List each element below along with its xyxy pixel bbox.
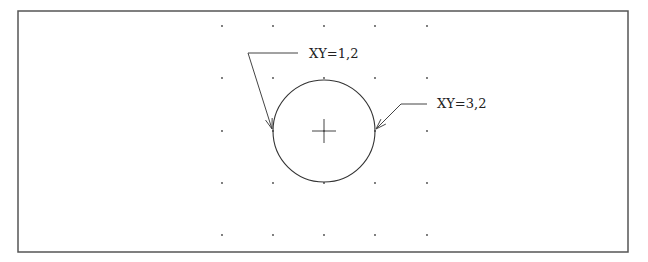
grid-dot xyxy=(272,182,274,184)
grid-dot xyxy=(221,25,223,27)
grid-dot xyxy=(426,182,428,184)
grid-dot xyxy=(426,234,428,236)
center-cross-icon xyxy=(312,119,336,143)
grid-dot xyxy=(272,77,274,79)
grid-dot xyxy=(374,77,376,79)
grid-dot xyxy=(272,234,274,236)
callout-label-point-2: XY=3,2 xyxy=(437,96,486,111)
grid-dot xyxy=(374,182,376,184)
grid-dot xyxy=(323,234,325,236)
callout-label-point-1: XY=1,2 xyxy=(309,46,358,61)
grid-dot xyxy=(426,130,428,132)
grid-dot xyxy=(323,25,325,27)
grid-dot xyxy=(221,182,223,184)
grid-dot xyxy=(374,25,376,27)
grid-dot xyxy=(374,234,376,236)
grid-dot xyxy=(221,130,223,132)
grid-dot xyxy=(426,77,428,79)
grid-dot xyxy=(221,234,223,236)
grid-dot xyxy=(221,77,223,79)
grid-dot xyxy=(426,25,428,27)
grid-dot xyxy=(323,77,325,79)
grid-dot xyxy=(272,25,274,27)
leader-line xyxy=(248,53,298,129)
diagram-canvas: XY=1,2 XY=3,2 xyxy=(0,0,648,262)
